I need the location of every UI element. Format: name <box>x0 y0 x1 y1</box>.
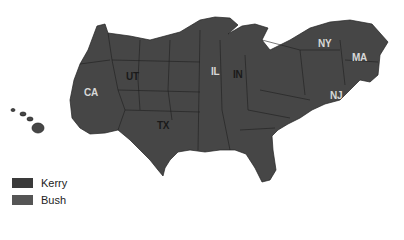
state-label-ca: CA <box>84 87 98 98</box>
state-label-il: IL <box>211 66 219 77</box>
state-label-ut: UT <box>126 71 139 82</box>
legend-label: Bush <box>41 194 66 206</box>
state-label-nj: NJ <box>330 90 342 101</box>
legend-item-bush: Bush <box>12 191 67 208</box>
bush-swatch <box>12 195 33 205</box>
legend-item-kerry: Kerry <box>12 174 67 191</box>
state-label-in: IN <box>233 69 242 80</box>
legend: Kerry Bush <box>12 174 67 208</box>
state-label-tx: TX <box>157 120 169 131</box>
kerry-swatch <box>12 178 33 188</box>
state-label-ma: MA <box>352 52 367 63</box>
state-label-ny: NY <box>318 38 331 49</box>
legend-label: Kerry <box>41 177 67 189</box>
